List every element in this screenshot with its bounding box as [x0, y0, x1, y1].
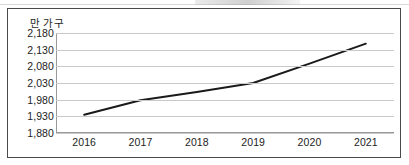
gridline — [56, 66, 394, 67]
gridline — [56, 83, 394, 84]
chart-frame-border: 만 가구 2,1802,1302,0802,0301,9801,9301,880… — [7, 8, 401, 158]
gridline — [56, 33, 394, 34]
x-tick-label: 2019 — [241, 136, 265, 148]
y-tick-label: 2,030 — [27, 77, 54, 89]
y-tick-label: 2,080 — [27, 60, 54, 72]
y-tick-label: 2,180 — [27, 27, 54, 39]
scan-artifact-smudge — [195, 0, 300, 5]
y-axis-tick-labels: 2,1802,1302,0802,0301,9801,9301,880 — [8, 9, 54, 159]
x-axis-tick-labels: 201620172018201920202021 — [56, 136, 394, 154]
y-tick-label: 1,880 — [27, 127, 54, 139]
gridline — [56, 133, 394, 134]
series-line — [84, 44, 366, 115]
x-tick-label: 2021 — [354, 136, 378, 148]
chart-figure: 만 가구 2,1802,1302,0802,0301,9801,9301,880… — [0, 0, 409, 165]
x-tick-label: 2020 — [298, 136, 322, 148]
gridline — [56, 50, 394, 51]
gridline — [56, 100, 394, 101]
x-tick-label: 2018 — [185, 136, 209, 148]
chart-plot-wrapper: 만 가구 2,1802,1302,0802,0301,9801,9301,880… — [8, 9, 402, 159]
x-tick-label: 2017 — [129, 136, 153, 148]
gridline — [56, 116, 394, 117]
x-tick-label: 2016 — [72, 136, 96, 148]
y-tick-label: 2,130 — [27, 44, 54, 56]
plot-area — [56, 33, 394, 133]
y-tick-label: 1,930 — [27, 110, 54, 122]
y-tick-label: 1,980 — [27, 94, 54, 106]
